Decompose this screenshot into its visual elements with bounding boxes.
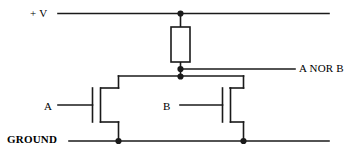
ground-junction-b-dot bbox=[240, 138, 246, 144]
drain-junction-dot bbox=[177, 73, 183, 79]
input-a-label: A bbox=[44, 101, 52, 112]
circuit-diagram: + V A NOR B A B GROUND bbox=[0, 0, 351, 158]
output-label: A NOR B bbox=[299, 63, 344, 74]
output-junction-dot bbox=[177, 66, 183, 72]
ground-label: GROUND bbox=[7, 134, 57, 145]
input-b-label: B bbox=[163, 101, 171, 112]
pull-up-resistor bbox=[171, 27, 190, 62]
ground-junction-a-dot bbox=[115, 138, 121, 144]
supply-label: + V bbox=[30, 8, 47, 19]
supply-junction-dot bbox=[177, 10, 183, 16]
